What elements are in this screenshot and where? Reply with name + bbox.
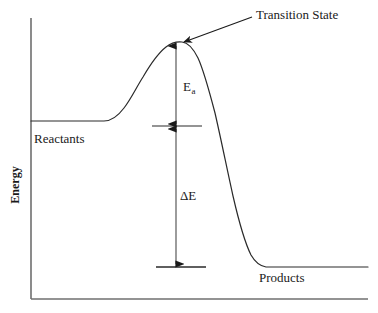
reactants-label: Reactants — [34, 132, 85, 145]
y-axis-label: Energy — [9, 155, 21, 215]
energy-diagram-figure: Transition State Reactants Products Ea Δ… — [0, 0, 378, 313]
energy-profile-curve — [31, 42, 368, 267]
activation-energy-label: Ea — [183, 80, 195, 96]
transition-state-label: Transition State — [256, 8, 338, 21]
delta-energy-label: ΔE — [180, 189, 196, 202]
activation-energy-subscript: a — [191, 86, 196, 96]
transition-state-leader-line — [184, 17, 252, 42]
reaction-coordinate-diagram — [0, 0, 378, 313]
products-label: Products — [259, 271, 305, 284]
activation-energy-symbol: E — [183, 79, 191, 94]
